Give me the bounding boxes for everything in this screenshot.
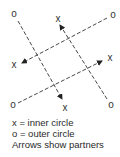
legend-outer-circle: o = outer circle	[12, 129, 75, 139]
legend-inner-circle: x = inner circle	[12, 118, 74, 128]
marker-x-bottom: x	[63, 102, 68, 113]
arrow-o-bottom-left-to-x-right	[18, 61, 102, 103]
partner-diagram: oxoxxoxo	[0, 0, 120, 120]
legend-arrows-note: Arrows show partners	[12, 140, 104, 150]
arrow-o-top-left-to-x-bottom	[18, 21, 62, 99]
marker-x-right: x	[108, 52, 113, 63]
marker-x-left: x	[12, 59, 17, 70]
marker-o-bottom-right: o	[108, 99, 114, 110]
partner-arrows	[18, 18, 107, 103]
marker-o-top-left: o	[11, 8, 17, 19]
marker-o-top-right: o	[110, 9, 116, 20]
marker-x-top: x	[56, 13, 61, 24]
marker-o-bottom-left: o	[10, 99, 16, 110]
arrow-o-top-right-to-x-left	[22, 18, 107, 63]
